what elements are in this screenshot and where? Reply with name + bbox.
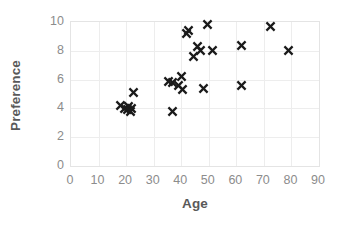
x-axis-tick-label: 70 xyxy=(248,174,278,187)
data-point-marker xyxy=(181,28,192,39)
y-axis-tick-label: 2 xyxy=(38,130,64,143)
data-point-marker xyxy=(236,80,247,91)
y-axis-title: Preference xyxy=(0,0,30,190)
data-point-marker xyxy=(122,104,133,115)
x-axis-tick-label: 90 xyxy=(303,174,333,187)
gridline-horizontal xyxy=(71,108,319,109)
gridline-horizontal xyxy=(71,51,319,52)
gridline-horizontal xyxy=(71,137,319,138)
x-axis-tick-label: 50 xyxy=(193,174,223,187)
scatter-chart: Preference 0246810 0102030405060708090 A… xyxy=(0,0,348,236)
gridline-vertical xyxy=(154,22,155,166)
data-point-marker xyxy=(163,76,174,87)
gridline-vertical xyxy=(181,22,182,166)
gridline-vertical xyxy=(126,22,127,166)
gridline-vertical xyxy=(236,22,237,166)
gridline-horizontal xyxy=(71,80,319,81)
data-point-marker xyxy=(128,87,139,98)
data-point-marker xyxy=(173,80,184,91)
gridline-vertical xyxy=(291,22,292,166)
y-axis-tick-label: 0 xyxy=(38,159,64,172)
x-axis-tick-label: 20 xyxy=(110,174,140,187)
data-point-marker xyxy=(123,101,134,112)
gridline-vertical xyxy=(264,22,265,166)
gridline-vertical xyxy=(209,22,210,166)
x-axis-tick-label: 0 xyxy=(55,174,85,187)
x-axis-tick-label: 40 xyxy=(165,174,195,187)
y-axis-tick-labels: 0246810 xyxy=(36,21,64,167)
data-point-marker xyxy=(188,51,199,62)
x-axis-tick-label: 60 xyxy=(220,174,250,187)
data-point-marker xyxy=(265,21,276,32)
y-axis-tick-label: 10 xyxy=(38,15,64,28)
plot-area xyxy=(70,21,320,167)
x-axis-title: Age xyxy=(60,196,330,211)
x-axis-tick-label: 10 xyxy=(83,174,113,187)
y-axis-tick-label: 6 xyxy=(38,72,64,85)
gridline-vertical xyxy=(99,22,100,166)
data-point-marker xyxy=(198,83,209,94)
data-point-marker xyxy=(236,40,247,51)
x-axis-tick-labels: 0102030405060708090 xyxy=(70,174,320,190)
x-axis-tick-label: 30 xyxy=(138,174,168,187)
data-point-marker xyxy=(202,19,213,30)
x-axis-tick-label: 80 xyxy=(275,174,305,187)
y-axis-tick-label: 8 xyxy=(38,44,64,57)
data-point-marker xyxy=(177,84,188,95)
data-point-marker xyxy=(183,25,194,36)
y-axis-tick-label: 4 xyxy=(38,101,64,114)
y-axis-title-text: Preference xyxy=(8,60,23,131)
